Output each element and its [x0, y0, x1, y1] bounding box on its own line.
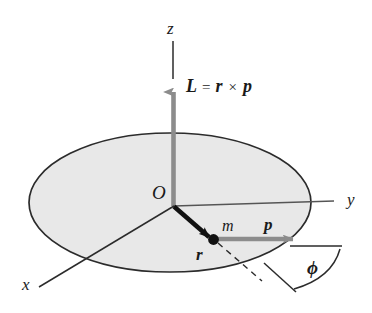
equation-equals-sign: =: [202, 80, 210, 95]
r-extension-solid-segment: [264, 263, 296, 292]
equation-lhs-L: L: [186, 77, 197, 95]
x-axis-label: x: [22, 276, 30, 293]
equation-operand-r: r: [215, 77, 222, 95]
z-axis-label: z: [167, 20, 174, 37]
momentum-vector-label-p: p: [264, 216, 273, 233]
angular-momentum-figure: z y x O r m p ϕ L = r × p: [0, 0, 372, 313]
particle-mass-dot: [208, 234, 219, 245]
cross-product-icon: ×: [227, 80, 237, 95]
y-axis-label: y: [347, 191, 355, 208]
angular-momentum-equation: L = r × p: [186, 77, 252, 95]
particle-mass-label-m: m: [222, 218, 234, 234]
position-vector-label-r: r: [196, 246, 203, 263]
equation-operand-p: p: [243, 77, 252, 95]
phi-angle-label: ϕ: [307, 258, 318, 277]
origin-label: O: [152, 183, 166, 202]
